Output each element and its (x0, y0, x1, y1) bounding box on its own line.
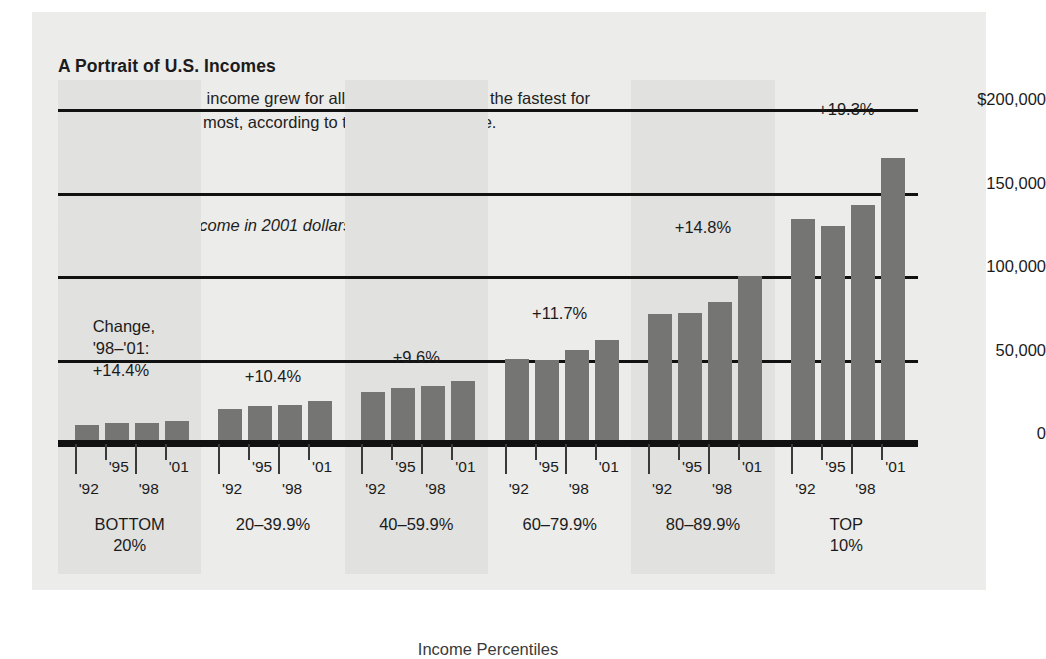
y-tick-label: 100,000 (926, 257, 1046, 276)
year-label: '98 (569, 480, 589, 498)
change-legend: Change, '98–'01: +14.4% (93, 315, 155, 381)
x-tick (791, 444, 793, 474)
bar (421, 386, 445, 444)
group-change-label: +14.8% (675, 218, 731, 237)
group-label: TOP 10% (775, 514, 918, 556)
year-label: '95 (682, 458, 702, 476)
x-tick (135, 444, 137, 474)
group-change-label: +11.7% (532, 304, 587, 323)
x-tick (421, 444, 423, 474)
year-label: '01 (169, 458, 189, 476)
x-tick (851, 444, 853, 474)
year-label: '01 (455, 458, 475, 476)
bar (565, 350, 589, 444)
bar (708, 302, 732, 444)
year-label: '92 (795, 480, 815, 498)
bar (881, 158, 905, 444)
x-tick (565, 444, 567, 474)
year-label: '98 (425, 480, 445, 498)
x-tick (535, 444, 537, 460)
gridline-150000 (58, 193, 918, 196)
x-tick (165, 444, 167, 460)
bar (851, 205, 875, 444)
group-band (345, 80, 488, 574)
year-label: '92 (222, 480, 242, 498)
year-label: '95 (395, 458, 415, 476)
x-tick (678, 444, 680, 460)
x-tick (451, 444, 453, 460)
gridline-200000 (58, 109, 918, 112)
year-label: '95 (109, 458, 129, 476)
x-tick (105, 444, 107, 460)
bar (535, 360, 559, 444)
year-label: '92 (652, 480, 672, 498)
year-label: '92 (509, 480, 529, 498)
x-tick (821, 444, 823, 460)
bar (278, 405, 302, 444)
x-tick (278, 444, 280, 474)
year-label: '98 (282, 480, 302, 498)
year-label: '98 (712, 480, 732, 498)
bar (821, 226, 845, 444)
bar (595, 340, 619, 444)
change-legend-line2: '98–'01: (93, 337, 155, 359)
bar (218, 409, 242, 444)
x-tick (648, 444, 650, 474)
gridline-100000 (58, 276, 918, 279)
group-label: 40–59.9% (345, 514, 488, 535)
bar (678, 313, 702, 444)
year-label: '95 (539, 458, 559, 476)
year-label: '01 (599, 458, 619, 476)
bar (248, 406, 272, 444)
bar (738, 276, 762, 444)
bar (361, 392, 385, 444)
x-tick (218, 444, 220, 474)
page-title: A Portrait of U.S. Incomes (58, 56, 276, 77)
year-label: '01 (742, 458, 762, 476)
group-change-label: +9.6% (393, 348, 440, 367)
x-tick (361, 444, 363, 474)
group-label: 60–79.9% (488, 514, 631, 535)
x-tick (75, 444, 77, 474)
x-tick (881, 444, 883, 460)
y-tick-label: $200,000 (926, 90, 1046, 109)
group-change-label: +10.4% (245, 367, 301, 386)
year-label: '98 (139, 480, 159, 498)
change-legend-line3: +14.4% (93, 359, 155, 381)
x-tick (708, 444, 710, 474)
x-tick (595, 444, 597, 460)
infographic-panel: A Portrait of U.S. Incomes From 1998 to … (32, 12, 986, 590)
x-tick (738, 444, 740, 460)
group-label: 20–39.9% (201, 514, 344, 535)
x-tick (308, 444, 310, 460)
year-label: '95 (825, 458, 845, 476)
group-label: BOTTOM 20% (58, 514, 201, 556)
bar (308, 401, 332, 444)
y-tick-label: 50,000 (926, 341, 1046, 360)
x-tick (505, 444, 507, 474)
x-axis-line (58, 440, 918, 444)
x-tick (248, 444, 250, 460)
bar-chart: '92'95'98'01'92'95'98'01'92'95'98'01'92'… (58, 110, 918, 444)
year-label: '92 (365, 480, 385, 498)
bar (391, 388, 415, 444)
year-label: '98 (855, 480, 875, 498)
bar (505, 359, 529, 444)
bar (648, 314, 672, 444)
year-label: '95 (252, 458, 272, 476)
bar (451, 381, 475, 444)
x-tick (391, 444, 393, 460)
change-legend-line1: Change, (93, 315, 155, 337)
y-tick-label: 0 (926, 424, 1046, 443)
bar (791, 219, 815, 444)
year-label: '92 (79, 480, 99, 498)
year-label: '01 (885, 458, 905, 476)
year-label: '01 (312, 458, 332, 476)
y-tick-label: 150,000 (926, 174, 1046, 193)
group-change-label: +19.3% (818, 100, 874, 119)
gridline-50000 (58, 360, 918, 363)
x-axis-caption: Income Percentiles (58, 640, 918, 659)
group-label: 80–89.9% (631, 514, 774, 535)
